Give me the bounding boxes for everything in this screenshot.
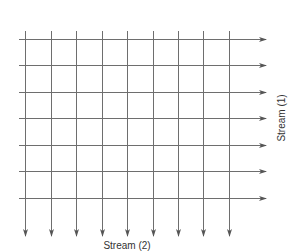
stream-2-flow-lines <box>26 31 230 236</box>
stream-1-flow-lines <box>19 40 266 199</box>
cross-flow-diagram: Stream (1) Stream (2) <box>0 0 297 252</box>
stream-2-label: Stream (2) <box>103 240 150 251</box>
stream-1-label: Stream (1) <box>276 94 287 141</box>
